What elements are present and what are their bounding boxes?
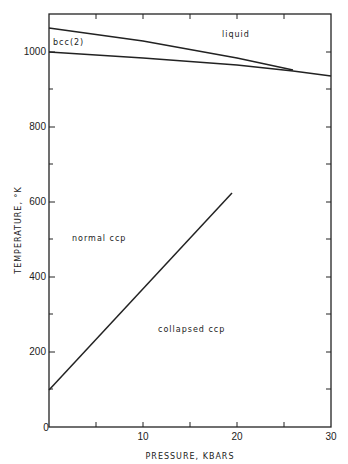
y-tick-label: 400 xyxy=(29,271,46,282)
x-axis-label: PRESSURE, KBARS xyxy=(146,452,235,461)
melting-curve-line xyxy=(49,52,331,76)
x-ticks xyxy=(96,14,284,427)
x-tick-label: 30 xyxy=(325,431,337,442)
y-tick-label: 600 xyxy=(29,196,46,207)
liquid-bcc-boundary-line xyxy=(49,28,293,70)
region-label-collapsed-ccp: collapsed ccp xyxy=(158,325,225,334)
y-tick-label: 200 xyxy=(29,346,46,357)
region-label-bcc2: bcc(2) xyxy=(53,38,84,47)
plot-frame xyxy=(49,14,331,427)
x-tick-label: 0 xyxy=(43,422,49,433)
y-axis-label: TEMPERATURE, °K xyxy=(14,186,23,275)
region-label-liquid: liquid xyxy=(222,30,250,39)
region-label-normal-ccp: normal ccp xyxy=(72,234,126,243)
phase-diagram: 0 10 20 30 200 400 600 800 1000 PRESSURE… xyxy=(0,0,348,464)
y-ticks xyxy=(49,52,331,389)
x-tick-label: 10 xyxy=(137,431,149,442)
ccp-transition-line xyxy=(49,193,232,390)
y-tick-label: 800 xyxy=(29,121,46,132)
x-tick-label: 20 xyxy=(231,431,243,442)
y-tick-label: 1000 xyxy=(24,46,47,57)
